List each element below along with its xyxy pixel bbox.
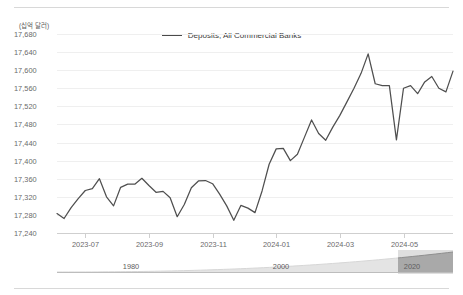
y-axis-tick-label: 17,680 [14,30,37,39]
top-divider [14,7,449,8]
y-axis-tick-label: 17,480 [14,120,37,129]
x-axis-tick-label: 2024-05 [391,240,418,249]
x-axis-tick-label: 2024-03 [327,240,354,249]
y-axis-tick-label: 17,600 [14,66,37,75]
x-axis-tick-label: 2024-01 [263,240,290,249]
chart-plot-area[interactable]: 17,68017,64017,60017,56017,52017,48017,4… [0,10,463,248]
navigator-year-label: 1980 [123,262,139,271]
y-axis-tick-label: 17,640 [14,48,37,57]
y-axis-tick-label: 17,440 [14,139,37,148]
x-axis-tick-label: 2023-09 [136,240,163,249]
bottom-divider [14,288,449,289]
y-axis-tick-label: 17,520 [14,102,37,111]
x-axis-tick-label: 2023-11 [200,240,227,249]
navigator-year-label: 2020 [404,262,420,271]
chart-navigator[interactable]: 198020002020 [0,250,463,280]
chart-svg: 17,68017,64017,60017,56017,52017,48017,4… [0,10,463,248]
y-axis-tick-label: 17,360 [14,175,37,184]
navigator-year-label: 2000 [273,262,289,271]
series-line-deposits[interactable] [57,54,453,220]
y-axis-tick-label: 17,400 [14,157,37,166]
y-axis-tick-label: 17,280 [14,211,37,220]
navigator-svg: 198020002020 [0,250,463,280]
chart-widget: (십억 달러) Deposits, All Commercial Banks 1… [0,0,463,295]
navigator-unselected-mask [57,250,398,274]
y-axis-tick-label: 17,560 [14,84,37,93]
x-axis-tick-label: 2023-07 [72,240,99,249]
y-axis-tick-label: 17,320 [14,193,37,202]
y-axis-tick-label: 17,240 [14,229,37,238]
